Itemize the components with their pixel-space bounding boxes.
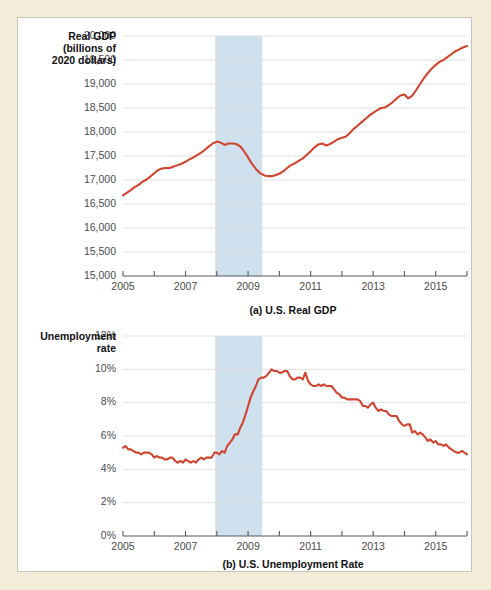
figure-panel: 15,00015,50016,00016,50017,00017,50018,0… [17,17,472,572]
y-axis-title-line: rate [97,342,116,354]
y-axis-title-line: Real GDP [68,30,116,42]
y-axis-title-line: 2020 dollars) [52,54,116,66]
gdp-yaxis-labels: 15,00015,50016,00016,50017,00017,50018,0… [84,29,116,281]
y-tick-label: 18,500 [84,101,116,113]
y-tick-label: 4% [101,462,116,474]
chart-us-real-gdp: 15,00015,50016,00016,50017,00017,50018,0… [18,18,473,318]
x-tick-label: 2007 [174,540,198,552]
y-axis-title-line: (billions of [63,42,117,54]
unemployment-svg: 0%2%4%6%8%10%12% 20052007200920112013201… [18,318,473,573]
x-tick-label: 2005 [111,540,135,552]
y-tick-label: 0% [101,529,116,541]
y-tick-label: 16,000 [84,221,116,233]
unemp-xaxis-labels: 200520072009201120132015 [111,540,447,552]
y-tick-label: 6% [101,429,116,441]
y-tick-label: 8% [101,395,116,407]
series-path [123,369,467,462]
gdp-axis-title: Real GDP(billions of2020 dollars) [52,30,117,66]
x-tick-label: 2013 [362,540,386,552]
x-tick-label: 2007 [174,280,198,292]
x-tick-label: 2011 [299,280,322,292]
x-tick-label: 2011 [299,540,322,552]
gdp-caption: (a) U.S. Real GDP [250,304,337,316]
x-tick-label: 2009 [236,280,260,292]
unemp-yaxis-labels: 0%2%4%6%8%10%12% [95,329,116,541]
chart-us-unemployment-rate: 0%2%4%6%8%10%12% 20052007200920112013201… [18,318,473,573]
y-tick-label: 10% [95,362,116,374]
series-path [123,46,467,195]
gdp-gridlines [123,36,467,252]
x-tick-label: 2015 [424,280,448,292]
unemp-series-line [123,369,467,462]
unemp-gridlines [123,336,467,503]
y-tick-label: 2% [101,495,116,507]
gdp-series-line [123,46,467,195]
y-tick-label: 17,500 [84,149,116,161]
gdp-svg: 15,00015,50016,00016,50017,00017,50018,0… [18,18,473,318]
gdp-xaxis-labels: 200520072009201120132015 [111,280,447,292]
x-tick-label: 2005 [111,280,135,292]
x-tick-label: 2013 [362,280,386,292]
y-tick-label: 15,000 [84,269,116,281]
unemp-axis-title: Unemploymentrate [40,330,116,354]
x-tick-label: 2015 [424,540,448,552]
y-tick-label: 18,000 [84,125,116,137]
y-axis-title-line: Unemployment [40,330,116,342]
x-tick-label: 2009 [236,540,260,552]
y-tick-label: 15,500 [84,245,116,257]
y-tick-label: 17,000 [84,173,116,185]
y-tick-label: 19,000 [84,77,116,89]
y-tick-label: 16,500 [84,197,116,209]
unemployment-caption: (b) U.S. Unemployment Rate [222,558,363,570]
